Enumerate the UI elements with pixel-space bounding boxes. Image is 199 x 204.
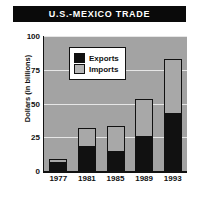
y-tick-label: 75 bbox=[14, 65, 40, 74]
chart-title: U.S.-MEXICO TRADE bbox=[49, 9, 150, 19]
y-tick-label: 25 bbox=[14, 133, 40, 142]
legend-item-exports: Exports bbox=[74, 53, 119, 63]
chart-legend: Exports Imports bbox=[69, 47, 126, 80]
bar-segment-exports bbox=[108, 152, 124, 170]
y-axis-ticks: 0255075100 bbox=[13, 36, 40, 171]
bar-segment-imports bbox=[108, 127, 124, 151]
plot-area: Exports Imports bbox=[43, 36, 187, 173]
gray-square-icon bbox=[74, 64, 85, 74]
black-square-icon bbox=[74, 53, 85, 63]
bar-segment-imports bbox=[79, 129, 95, 147]
chart-figure: U.S.-MEXICO TRADE Dollars (in billions) … bbox=[0, 0, 199, 204]
bar-stack bbox=[164, 59, 182, 171]
bar-segment-exports bbox=[136, 137, 152, 170]
legend-label-exports: Exports bbox=[89, 54, 119, 63]
bar-stack bbox=[107, 126, 125, 171]
legend-item-imports: Imports bbox=[74, 64, 119, 74]
legend-label-imports: Imports bbox=[89, 65, 118, 74]
chart-title-banner: U.S.-MEXICO TRADE bbox=[13, 6, 186, 22]
bar-segment-exports bbox=[79, 147, 95, 170]
gridline bbox=[44, 36, 187, 37]
bar-segment-imports bbox=[136, 100, 152, 137]
bar-stack bbox=[135, 99, 153, 171]
x-tick-label: 1993 bbox=[153, 174, 193, 183]
y-tick-label: 0 bbox=[14, 167, 40, 176]
bar-stack bbox=[49, 159, 67, 171]
y-tick-label: 100 bbox=[14, 32, 40, 41]
bar-segment-exports bbox=[50, 163, 66, 170]
caption-strip bbox=[8, 192, 191, 200]
bar-segment-imports bbox=[165, 60, 181, 114]
plot-container: Dollars (in billions) 0255075100 Exports… bbox=[13, 26, 186, 178]
bar-stack bbox=[78, 128, 96, 171]
y-tick-label: 50 bbox=[14, 99, 40, 108]
bar-segment-exports bbox=[165, 114, 181, 170]
x-axis-ticks: 19771981198519891993 bbox=[44, 174, 187, 188]
